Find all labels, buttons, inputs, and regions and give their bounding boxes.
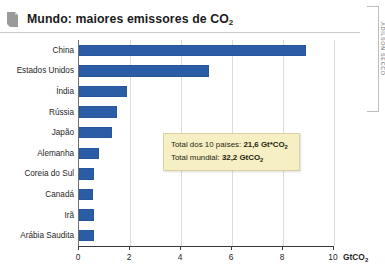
- annotation-line-1-value: 21,6 Gt*CO: [243, 140, 284, 149]
- page-title-main: Mundo: maiores emissores de CO: [27, 12, 229, 26]
- credit-text: ADILSON SECCO: [379, 22, 385, 75]
- category-label: Rússia: [49, 108, 74, 117]
- bar: [79, 106, 117, 118]
- x-axis-unit-text: GtCO: [343, 252, 365, 262]
- bar: [79, 148, 99, 160]
- category-label: Canadá: [45, 190, 74, 199]
- x-tick-mark: [180, 246, 181, 250]
- x-tick-mark: [78, 246, 79, 250]
- category-label: Irã: [64, 211, 74, 220]
- bar: [79, 168, 94, 180]
- annotation-line-2: Total mundial: 32,2 GtCO2: [171, 152, 292, 165]
- bar-row: Rússia: [79, 102, 334, 123]
- bar: [79, 230, 94, 242]
- bookmark-flag-icon: [7, 12, 18, 27]
- page-title-subscript: 2: [229, 18, 234, 27]
- bar-row: Irã: [79, 205, 334, 226]
- bar: [79, 45, 306, 57]
- category-label: Alemanha: [37, 149, 74, 158]
- annotation-line-2-subscript: 2: [260, 157, 263, 163]
- bar-row: Canadá: [79, 184, 334, 205]
- category-label: Estados Unidos: [17, 66, 74, 75]
- annotation-line-1-label: Total dos 10 países:: [171, 140, 243, 149]
- x-tick-label: 0: [76, 252, 81, 262]
- annotation-line-2-value: 32,2 GtCO: [222, 153, 260, 162]
- x-axis-ticks: 0246810: [78, 246, 333, 268]
- totals-annotation-box: Total dos 10 países: 21,6 Gt*CO2 Total m…: [163, 133, 300, 171]
- x-tick-label: 6: [229, 252, 234, 262]
- category-label: China: [53, 46, 74, 55]
- bar-chart: ChinaEstados UnidosÍndiaRússiaJapãoAlema…: [0, 36, 360, 268]
- page-title: Mundo: maiores emissores de CO2: [27, 12, 233, 26]
- annotation-line-1: Total dos 10 países: 21,6 Gt*CO2: [171, 139, 292, 152]
- x-tick-label: 2: [127, 252, 132, 262]
- category-label: Coreia do Sul: [24, 169, 74, 178]
- credit-bracket: [367, 6, 379, 112]
- bar: [79, 86, 127, 98]
- x-tick-mark: [282, 246, 283, 250]
- x-tick-label: 10: [328, 252, 337, 262]
- x-tick-mark: [231, 246, 232, 250]
- annotation-line-1-subscript: 2: [285, 144, 288, 150]
- gridline: [334, 40, 335, 246]
- figure-title-bar: Mundo: maiores emissores de CO2: [0, 6, 360, 33]
- category-label: Japão: [52, 128, 74, 137]
- bar: [79, 65, 209, 77]
- bar: [79, 209, 94, 221]
- x-tick-label: 4: [178, 252, 183, 262]
- bar-row: Estados Unidos: [79, 61, 334, 82]
- bar-row: Arábia Saudita: [79, 225, 334, 246]
- bar: [79, 127, 112, 139]
- x-axis-unit-label: GtCO2: [343, 252, 368, 262]
- x-tick-mark: [333, 246, 334, 250]
- category-label: Arábia Saudita: [20, 231, 74, 240]
- bar: [79, 189, 93, 201]
- credit-block: ADILSON SECCO: [367, 6, 381, 116]
- x-axis-unit-subscript: 2: [365, 257, 368, 263]
- bar-row: China: [79, 40, 334, 61]
- category-label: Índia: [56, 87, 74, 96]
- x-tick-mark: [129, 246, 130, 250]
- bar-row: Índia: [79, 81, 334, 102]
- annotation-line-2-label: Total mundial:: [171, 153, 222, 162]
- x-tick-label: 8: [280, 252, 285, 262]
